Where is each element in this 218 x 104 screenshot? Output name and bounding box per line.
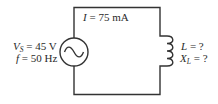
inductor xyxy=(167,36,173,66)
current-label: I = 75 mA xyxy=(82,11,129,23)
ac-source xyxy=(60,38,88,66)
reactance-label: XL = ? xyxy=(179,52,208,66)
sine-wave-icon xyxy=(65,47,84,57)
source-frequency-label: f = 50 Hz xyxy=(16,52,57,64)
circuit-diagram: I = 75 mA VS = 45 V f = 50 Hz L = ? XL =… xyxy=(0,0,218,104)
coil-icon xyxy=(167,36,173,66)
inductance-label: L = ? xyxy=(180,40,204,52)
wire-left-bottom xyxy=(74,66,167,95)
